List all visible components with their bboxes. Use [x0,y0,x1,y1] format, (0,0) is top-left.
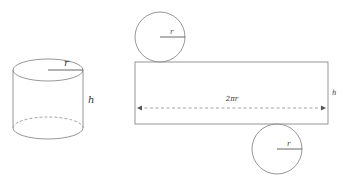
net-height-label: h [332,89,337,97]
net-width-label: 2πr [225,95,239,103]
arrow-right-icon [321,106,326,111]
cylinder-height-label: h [88,94,94,105]
cylinder-radius-label: r [64,57,70,68]
cylinder-bottom-front [13,128,83,139]
arrow-left-icon [137,106,142,111]
cylinder-net-diagram: r h r 2πr h r [0,0,348,187]
net-bottom-radius-label: r [287,140,291,148]
net-top-radius-label: r [170,28,174,36]
net-rectangle [135,62,328,124]
cylinder-bottom-back-dashed [13,117,83,128]
cylinder-3d: r h [13,57,94,139]
cylinder-net: r 2πr h r [135,12,337,174]
